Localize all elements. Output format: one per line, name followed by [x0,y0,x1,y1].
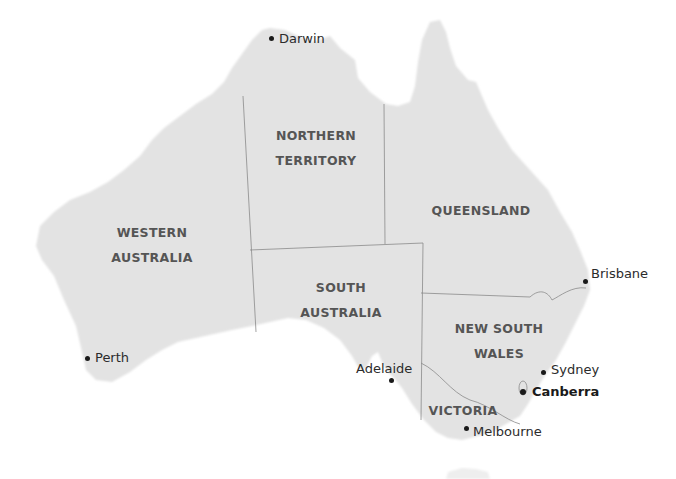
city-marker-sydney [541,370,546,375]
city-marker-darwin [269,36,274,41]
city-label-canberra: Canberra [532,384,599,399]
state-label-sa: SOUTH AUSTRALIA [300,275,381,325]
city-label-perth: Perth [95,350,129,365]
state-label-vic: VICTORIA [428,398,497,423]
city-marker-adelaide [389,378,394,383]
city-marker-melbourne [464,426,469,431]
australia-map [0,0,676,479]
state-label-wa: WESTERN AUSTRALIA [111,220,192,270]
city-label-adelaide: Adelaide [356,361,412,376]
city-label-darwin: Darwin [279,31,325,46]
city-label-melbourne: Melbourne [473,424,542,439]
state-label-qld: QUEENSLAND [432,198,531,223]
city-label-sydney: Sydney [551,362,599,377]
state-label-nsw: NEW SOUTH WALES [455,316,544,366]
city-marker-perth [85,356,90,361]
tasmania-outline [446,468,490,479]
city-label-brisbane: Brisbane [591,266,648,281]
city-marker-brisbane [583,279,588,284]
city-marker-canberra [520,389,526,395]
state-label-nt: NORTHERN TERRITORY [276,123,357,173]
